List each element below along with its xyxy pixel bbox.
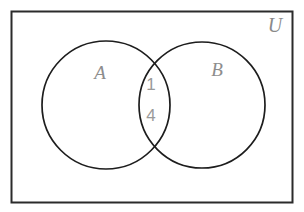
universal-set-label: U	[268, 14, 284, 36]
intersection-count-top: 1	[146, 75, 155, 94]
intersection-count-bottom: 4	[146, 106, 155, 125]
set-a-label: A	[92, 62, 106, 83]
venn-diagram-svg: U A B 1 4	[0, 0, 304, 212]
venn-diagram-canvas: U A B 1 4	[0, 0, 304, 212]
set-b-label: B	[211, 59, 223, 80]
